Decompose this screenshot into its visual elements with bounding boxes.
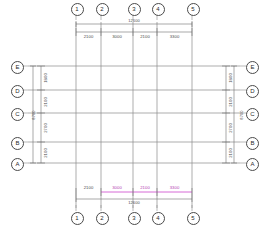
- grid-bubble-left-a[interactable]: A: [11, 158, 24, 171]
- grid-bubble-bottom-4[interactable]: 4: [152, 212, 165, 225]
- grid-bubble-left-d[interactable]: D: [11, 85, 24, 98]
- dim-top-seg-1: 2100: [84, 34, 94, 39]
- dim-top-seg-4: 3300: [170, 34, 180, 39]
- dim-right-seg-4: 2100: [228, 148, 233, 158]
- cad-drawing-canvas[interactable]: 1 2 3 4 5 1 2 3 4 5 E D C B A E D C B A …: [0, 0, 268, 235]
- grid-bubble-bottom-1[interactable]: 1: [71, 212, 84, 225]
- dim-bottom-seg-3[interactable]: 2100: [140, 185, 150, 190]
- dim-left-seg-2: 2100: [43, 97, 48, 107]
- grid-bubble-right-d[interactable]: D: [246, 85, 259, 98]
- grid-bubble-top-1[interactable]: 1: [71, 3, 84, 16]
- vertical-bubble-leaders: [76, 14, 192, 211]
- grid-bubble-bottom-5[interactable]: 5: [187, 212, 200, 225]
- grid-bubble-bottom-2[interactable]: 2: [96, 212, 109, 225]
- vertical-grid-lines: [76, 22, 192, 208]
- dim-bottom-seg-1: 2100: [84, 185, 94, 190]
- grid-bubble-top-2[interactable]: 2: [96, 3, 109, 16]
- dim-top-seg-2: 3000: [112, 34, 122, 39]
- horizontal-bubble-leaders: [22, 66, 246, 163]
- dim-top-seg-3: 2100: [140, 34, 150, 39]
- dim-bottom-total: 12600: [128, 200, 140, 205]
- grid-bubble-right-a[interactable]: A: [246, 158, 259, 171]
- dim-bottom-seg-2[interactable]: 3000: [112, 185, 122, 190]
- dim-right-seg-1: 1800: [228, 73, 233, 83]
- dim-left-seg-4: 2100: [43, 148, 48, 158]
- grid-bubble-top-3[interactable]: 3: [128, 3, 141, 16]
- grid-bubble-top-5[interactable]: 5: [187, 3, 200, 16]
- horizontal-grid-lines: [28, 66, 240, 163]
- dim-right-total: 8700: [239, 110, 244, 119]
- grid-bubble-left-c[interactable]: C: [11, 108, 24, 121]
- dim-left-seg-3: 2700: [43, 123, 48, 133]
- grid-bubble-bottom-3[interactable]: 3: [128, 212, 141, 225]
- grid-bubble-right-c[interactable]: C: [246, 108, 259, 121]
- grid-bubble-left-e[interactable]: E: [11, 61, 24, 74]
- grid-bubble-right-e[interactable]: E: [246, 61, 259, 74]
- dim-left-total: 8700: [31, 110, 36, 119]
- dim-right-seg-3: 2700: [228, 123, 233, 133]
- dim-left-seg-1: 1800: [43, 73, 48, 83]
- dim-right-seg-2: 2100: [228, 97, 233, 107]
- grid-bubble-top-4[interactable]: 4: [152, 3, 165, 16]
- grid-bubble-left-b[interactable]: B: [11, 137, 24, 150]
- grid-bubble-right-b[interactable]: B: [246, 137, 259, 150]
- dim-top-total: 12600: [128, 18, 140, 23]
- dim-bottom-seg-4[interactable]: 3300: [170, 185, 180, 190]
